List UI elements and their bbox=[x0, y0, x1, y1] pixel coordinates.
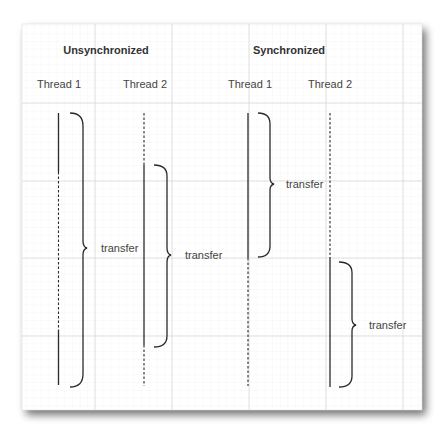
unsync-thread2-label: Thread 2 bbox=[123, 78, 167, 90]
section-title-unsynchronized: Unsynchronized bbox=[63, 44, 149, 56]
unsync-transfer-label-2: transfer bbox=[185, 249, 223, 261]
section-title-synchronized: Synchronized bbox=[253, 44, 325, 56]
sync-transfer-label-2: transfer bbox=[369, 319, 407, 331]
unsync-thread1-label: Thread 1 bbox=[37, 78, 81, 90]
sync-thread2-label: Thread 2 bbox=[308, 78, 352, 90]
thread-synchronization-diagram: Unsynchronized Synchronized Thread 1 Thr… bbox=[0, 0, 446, 428]
sync-transfer-label-1: transfer bbox=[286, 178, 324, 190]
unsync-transfer-label-1: transfer bbox=[101, 242, 139, 254]
sync-thread1-label: Thread 1 bbox=[228, 78, 272, 90]
diagram-canvas: Unsynchronized Synchronized Thread 1 Thr… bbox=[0, 0, 446, 428]
grid-minor bbox=[22, 24, 422, 410]
